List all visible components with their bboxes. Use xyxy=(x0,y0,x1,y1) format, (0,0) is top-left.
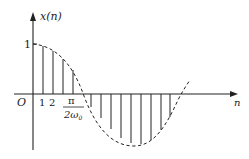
fraction-numerator: π xyxy=(68,95,75,106)
stems xyxy=(43,46,170,144)
x-axis-label: n xyxy=(234,97,240,108)
origin-label: O xyxy=(17,96,26,109)
y-axis xyxy=(30,12,36,150)
stem-plot: x(n) n O 1 1 2 π 2ω0 xyxy=(0,0,249,159)
x-axis xyxy=(14,91,238,97)
x-tick-label-1: 1 xyxy=(39,97,45,108)
y-axis-label: x(n) xyxy=(40,10,62,23)
x-tick-label-2: 2 xyxy=(49,97,55,108)
fraction-denominator: 2ω0 xyxy=(63,109,83,121)
fraction-label: π 2ω0 xyxy=(63,95,84,121)
y-axis-arrow-icon xyxy=(30,12,36,21)
y-tick-label: 1 xyxy=(24,38,31,51)
